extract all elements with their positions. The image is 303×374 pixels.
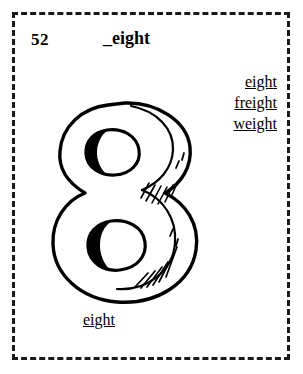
- numeral-eight-icon: [45, 97, 220, 312]
- word-label: freight: [234, 94, 277, 111]
- answer-word[interactable]: eight: [83, 311, 115, 329]
- word-label: eight: [245, 73, 277, 90]
- word-label: weight: [233, 115, 277, 132]
- card-number: 52: [31, 31, 49, 48]
- answer-label: eight: [83, 311, 115, 328]
- list-item[interactable]: eight: [157, 71, 277, 92]
- word-card: 52 _eight eight freight weight: [12, 12, 290, 360]
- page-title: _eight: [103, 29, 150, 49]
